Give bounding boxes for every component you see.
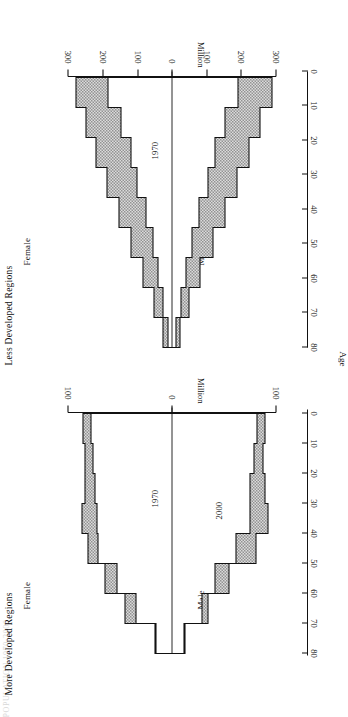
band-female-more bbox=[82, 413, 172, 653]
age-tick-label: 0 bbox=[309, 69, 319, 73]
age-tick-label: 30 bbox=[309, 170, 319, 179]
age-tick-label: 40 bbox=[309, 205, 319, 214]
age-tick-label: 50 bbox=[309, 239, 319, 248]
age-tick bbox=[302, 243, 308, 244]
age-tick-label: 80 bbox=[309, 649, 319, 658]
band-male-less bbox=[172, 77, 272, 347]
pyramid-svg-less bbox=[22, 59, 322, 365]
age-tick-label: 0 bbox=[309, 411, 319, 415]
age-tick-label: 10 bbox=[309, 101, 319, 110]
age-tick bbox=[302, 592, 308, 593]
age-tick-label: 10 bbox=[309, 439, 319, 448]
age-tick-label: 80 bbox=[309, 343, 319, 352]
age-tick bbox=[302, 562, 308, 563]
age-tick bbox=[302, 277, 308, 278]
age-tick bbox=[302, 70, 308, 71]
age-tick-label: 70 bbox=[309, 619, 319, 628]
band-male-more bbox=[172, 413, 268, 653]
panel-title-more-developed: More Developed Regions bbox=[4, 592, 14, 695]
age-tick bbox=[302, 532, 308, 533]
value-tick-less-0: 0 bbox=[167, 59, 177, 63]
value-tick-less-300-bottom: 300 bbox=[271, 50, 281, 63]
age-tick bbox=[302, 442, 308, 443]
value-tick-more-100-top: 100 bbox=[63, 386, 73, 399]
age-axis-label: Age bbox=[338, 0, 348, 717]
age-tick-label: 70 bbox=[309, 308, 319, 317]
value-tick-more-0: 0 bbox=[167, 395, 177, 399]
panel-more-developed-regions: More Developed Regions Female Male 1970 … bbox=[0, 395, 348, 695]
value-tick-more-100-bottom: 100 bbox=[271, 386, 281, 399]
age-tick-label: 60 bbox=[309, 274, 319, 283]
age-axis: 8070605040302010080706050403020100 bbox=[302, 0, 336, 717]
value-tick-less-200-top: 200 bbox=[98, 50, 108, 63]
plot-area-less-developed bbox=[22, 59, 322, 365]
age-tick-label: 20 bbox=[309, 469, 319, 478]
age-tick bbox=[302, 472, 308, 473]
plot-area-more-developed bbox=[22, 395, 322, 695]
age-tick bbox=[302, 412, 308, 413]
age-tick-label: 30 bbox=[309, 499, 319, 508]
population-pyramid-figure: POPULATION 1970-2000 More Developed Regi… bbox=[0, 0, 348, 717]
value-tick-less-300-top: 300 bbox=[63, 50, 73, 63]
age-tick-label: 50 bbox=[309, 559, 319, 568]
age-tick bbox=[302, 502, 308, 503]
value-axis-label-less: Million bbox=[196, 41, 206, 67]
value-axis-label-more: Million bbox=[196, 377, 206, 403]
age-tick-label: 40 bbox=[309, 529, 319, 538]
age-tick bbox=[302, 105, 308, 106]
age-tick bbox=[302, 652, 308, 653]
age-tick-label: 60 bbox=[309, 589, 319, 598]
panel-title-less-developed: Less Developed Regions bbox=[4, 265, 14, 365]
age-tick bbox=[302, 208, 308, 209]
panel-less-developed-regions: Less Developed Regions Female Male 1970 … bbox=[0, 35, 348, 365]
age-tick bbox=[302, 622, 308, 623]
age-tick bbox=[302, 139, 308, 140]
age-tick bbox=[302, 312, 308, 313]
age-tick bbox=[302, 346, 308, 347]
band-female-less bbox=[76, 77, 172, 347]
age-tick bbox=[302, 174, 308, 175]
age-tick-label: 20 bbox=[309, 136, 319, 145]
pyramid-svg-more bbox=[22, 395, 322, 695]
value-tick-less-200-bottom: 200 bbox=[236, 50, 246, 63]
value-tick-less-100-top: 100 bbox=[133, 50, 143, 63]
